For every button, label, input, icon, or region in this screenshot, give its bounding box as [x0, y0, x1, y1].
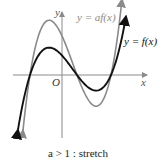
curve-f: [18, 16, 126, 129]
origin-label: O: [52, 76, 60, 88]
y-axis-label: y: [54, 6, 60, 18]
x-axis-label: x: [140, 76, 146, 88]
caption: a > 1 : stretch: [48, 147, 108, 159]
curve-af-label: y = af(x): [76, 11, 116, 24]
curve-f-label: y = f(x): [123, 35, 157, 48]
stretch-diagram: y x O y = af(x) y = f(x) a > 1 : stretch: [0, 0, 167, 165]
